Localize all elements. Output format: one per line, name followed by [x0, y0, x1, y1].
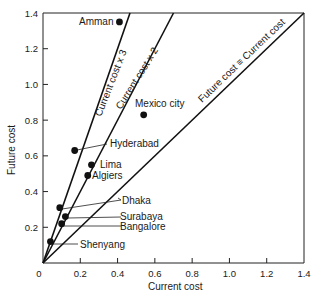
x-tick-label: 1.0: [223, 268, 236, 279]
reference-line: [43, 13, 304, 263]
label-hyderabad: Hyderabad: [110, 138, 159, 149]
y-tick-label: 0.6: [25, 150, 38, 161]
x-tick-label: 0.4: [111, 268, 124, 279]
label-amman: Amman: [79, 16, 113, 27]
x-tick-label: 1.2: [260, 268, 273, 279]
x-tick-label: 1.4: [297, 268, 310, 279]
y-tick-label: 1.4: [25, 8, 38, 19]
y-axis-title: Future cost: [6, 125, 17, 175]
data-point-dhaka: [56, 204, 63, 211]
label-algiers: Algiers: [92, 170, 123, 181]
label-lima: Lima: [100, 159, 122, 170]
label-shenyang: Shenyang: [80, 239, 125, 250]
reference-lines: [43, 13, 304, 263]
data-point-lima: [88, 161, 95, 168]
line-label-x1: Future cost ≡ Current cost: [196, 16, 287, 104]
label-bangalore: Bangalore: [120, 221, 166, 232]
y-tick-label: 1.0: [25, 79, 38, 90]
y-tick-label: 0.2: [25, 222, 38, 233]
x-tick-label: 0.6: [148, 268, 161, 279]
data-point-hyderabad: [71, 147, 78, 154]
x-tick-label: 0.8: [186, 268, 199, 279]
x-tick-label: 0: [36, 268, 41, 279]
data-point-amman: [116, 19, 123, 26]
data-point-mexico-city: [140, 111, 147, 118]
data-point-shenyang: [47, 238, 54, 245]
y-tick-label: 1.2: [25, 43, 38, 54]
scatter-chart: 00.20.40.60.81.01.21.40.20.40.60.81.01.2…: [0, 0, 319, 296]
data-point-bangalore: [58, 220, 65, 227]
data-point-algiers: [84, 172, 91, 179]
x-tick-label: 0.2: [74, 268, 87, 279]
data-point-surabaya: [62, 213, 69, 220]
label-dhaka: Dhaka: [122, 195, 151, 206]
label-mexico-city: Mexico city: [135, 98, 184, 109]
x-axis-title: Current cost: [148, 281, 203, 292]
y-tick-label: 0.8: [25, 115, 38, 126]
y-tick-label: 0.4: [25, 186, 38, 197]
